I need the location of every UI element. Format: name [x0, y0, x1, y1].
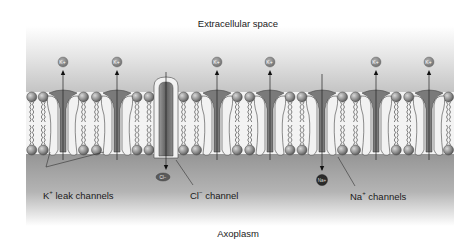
na-channels-label: Na+ channels [350, 191, 406, 202]
phospholipid-head [79, 92, 89, 102]
na-ion-label: Na+ [318, 178, 327, 183]
phospholipid-head [338, 92, 348, 102]
axoplasm-text: Axoplasm [217, 228, 259, 239]
k-ion-icon: K+ [112, 57, 122, 67]
extracellular-space-text: Extracellular space [198, 18, 278, 29]
phospholipid-head [351, 92, 361, 102]
phospholipid-head [404, 92, 414, 102]
axoplasm-region [26, 150, 454, 226]
membrane-diagram: K+K+K+K+Na+K+K+Cl− Extracellular space K… [0, 0, 476, 250]
phospholipid-head [285, 145, 295, 155]
phospholipid-head [79, 145, 89, 155]
cl-channel-text: channel [203, 190, 239, 201]
phospholipid-head [144, 92, 154, 102]
phospholipid-head [38, 145, 48, 155]
na-charge: + [362, 190, 366, 196]
phospholipid-head [92, 145, 102, 155]
phospholipid-head [27, 145, 37, 155]
phospholipid-head [297, 92, 307, 102]
phospholipid-head [38, 92, 48, 102]
phospholipid-head [132, 92, 142, 102]
phospholipid-head [179, 92, 189, 102]
phospholipid-head [245, 92, 255, 102]
phospholipid-head [444, 92, 454, 102]
cl-channel-label: Cl− channel [190, 190, 238, 201]
k-ion-icon: K+ [212, 57, 222, 67]
phospholipid-head [338, 145, 348, 155]
k-leak-channels-label: K+ leak channels [43, 190, 114, 201]
phospholipid-head [245, 145, 255, 155]
extracellular-space-label: Extracellular space [0, 18, 476, 29]
k-ion-label: K+ [59, 59, 65, 65]
phospholipid-head [444, 145, 454, 155]
phospholipid-head [232, 92, 242, 102]
na-ion-icon: Na+ [317, 175, 328, 186]
phospholipid-head [27, 92, 37, 102]
k-ion-label: K+ [213, 59, 219, 65]
phospholipid-head [192, 145, 202, 155]
k-leak-text: leak channels [53, 190, 114, 201]
phospholipid-head [232, 145, 242, 155]
k-ion-label: K+ [266, 59, 272, 65]
cl-ion-label: Cl− [160, 175, 167, 180]
phospholipid-head [297, 145, 307, 155]
extracellular-region [26, 26, 454, 92]
na-channels-text: channels [366, 191, 407, 202]
phospholipid-head [144, 145, 154, 155]
k-ion-icon: K+ [58, 57, 68, 67]
phospholipid-head [285, 92, 295, 102]
phospholipid-head [179, 145, 189, 155]
phospholipid-head [391, 92, 401, 102]
k-ion-label: K+ [372, 59, 378, 65]
phospholipid-head [132, 145, 142, 155]
axoplasm-label: Axoplasm [0, 228, 476, 239]
cl-ion-icon: Cl− [156, 173, 170, 181]
na-ion-symbol: Na [350, 191, 362, 202]
cl-charge: − [199, 189, 203, 195]
k-ion-icon: K+ [265, 57, 275, 67]
k-ion-label: K+ [113, 59, 119, 65]
diagram-canvas: K+K+K+K+Na+K+K+Cl− [0, 0, 476, 250]
phospholipid-head [92, 92, 102, 102]
k-ion-icon: K+ [424, 57, 434, 67]
phospholipid-head [351, 145, 361, 155]
phospholipid-head [404, 145, 414, 155]
k-charge: + [49, 189, 53, 195]
cl-ion-symbol: Cl [190, 190, 199, 201]
k-ion-icon: K+ [371, 57, 381, 67]
cl-channel [154, 72, 178, 170]
k-ion-label: K+ [425, 59, 431, 65]
phospholipid-head [192, 92, 202, 102]
phospholipid-head [391, 145, 401, 155]
